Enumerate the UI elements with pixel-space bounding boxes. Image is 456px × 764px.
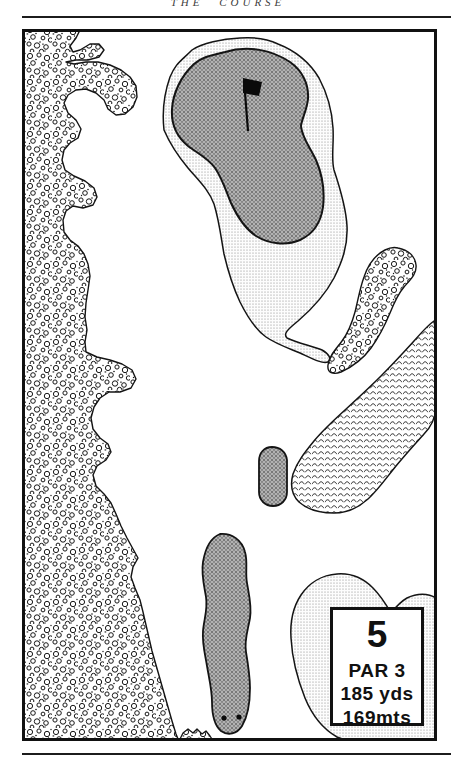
hole-distance-yards: 185 yds [340, 682, 413, 705]
hole-distance-meters: 169mts [343, 706, 412, 729]
hole-par: PAR 3 [348, 659, 405, 682]
bottom-rule [22, 753, 451, 755]
greenside-bunker [259, 447, 287, 506]
hole-info-card: 5 PAR 3 185 yds 169mts [330, 607, 424, 726]
tee-marker-right [236, 714, 241, 719]
hole-number: 5 [367, 616, 388, 653]
tee-marker-left [221, 715, 226, 720]
